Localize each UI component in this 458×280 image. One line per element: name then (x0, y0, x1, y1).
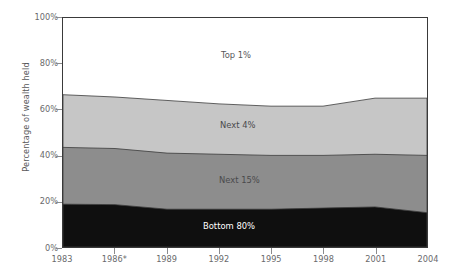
x-tick-mark (219, 248, 220, 254)
x-tick-label: 1995 (251, 254, 291, 264)
x-tick-mark (114, 248, 115, 254)
x-tick-mark (323, 248, 324, 254)
y-tick-label: 0% (0, 243, 58, 253)
y-tick-label: 60% (0, 104, 58, 114)
y-tick-label: 40% (0, 150, 58, 160)
x-tick-label: 1992 (199, 254, 239, 264)
series-label-next15: Next 15% (219, 175, 260, 185)
x-tick-label: 1998 (303, 254, 343, 264)
x-tick-label: 1986* (94, 254, 134, 264)
x-tick-label: 1989 (147, 254, 187, 264)
x-tick-label: 2001 (356, 254, 396, 264)
x-tick-mark (376, 248, 377, 254)
y-tick-mark (56, 248, 62, 249)
series-label-top1: Top 1% (221, 50, 251, 60)
x-tick-mark (271, 248, 272, 254)
series-label-next4: Next 4% (220, 120, 255, 130)
x-tick-mark (167, 248, 168, 254)
x-tick-label: 1983 (42, 254, 82, 264)
x-tick-label: 2004 (408, 254, 448, 264)
y-axis-title: Percentage of wealth held (21, 47, 31, 187)
y-tick-label: 80% (0, 58, 58, 68)
y-tick-label: 20% (0, 196, 58, 206)
y-tick-label: 100% (0, 12, 58, 22)
series-label-bottom80: Bottom 80% (203, 221, 255, 231)
stacked-area-chart-figure: Percentage of wealth held 0%20%40%60%80%… (0, 0, 458, 280)
